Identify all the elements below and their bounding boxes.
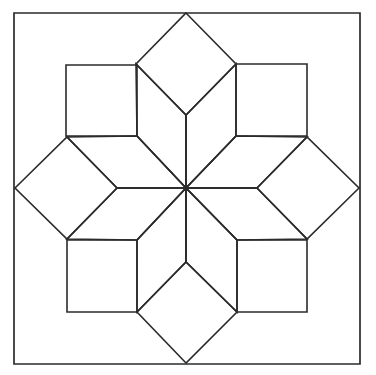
rosette-drawing bbox=[0, 0, 376, 375]
center-hub-dot bbox=[183, 185, 188, 190]
rosette-figure bbox=[0, 0, 376, 375]
